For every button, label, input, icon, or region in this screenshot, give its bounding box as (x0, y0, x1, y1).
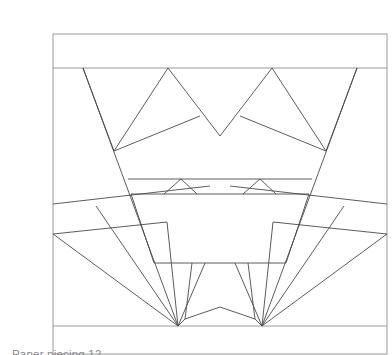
quilt-block-pattern-figure (40, 16, 392, 355)
pattern-line-layer (53, 34, 387, 354)
quilt-block-pattern-svg (40, 16, 392, 355)
caption-row: Paper piecing 12 (12, 344, 352, 355)
caption-text: Paper piecing 12 (12, 348, 102, 355)
